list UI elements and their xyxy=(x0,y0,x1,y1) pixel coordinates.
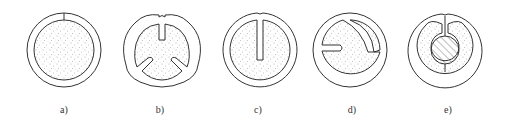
panel-a-ring xyxy=(27,13,101,87)
panel-d-ring xyxy=(313,13,387,87)
panel-c-ring xyxy=(223,13,297,87)
panel-a-label: a) xyxy=(60,104,68,115)
panel-d-label: d) xyxy=(348,104,356,115)
figure-canvas xyxy=(0,0,506,127)
panel-c-label: c) xyxy=(254,104,262,115)
panel-b-label: b) xyxy=(156,104,164,115)
panel-b-ring xyxy=(124,15,201,87)
panel-e-ring xyxy=(408,14,482,88)
panel-e-label: e) xyxy=(444,104,452,115)
